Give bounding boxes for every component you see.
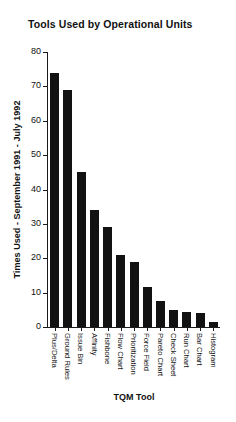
bar: [90, 210, 99, 327]
x-tick-mark: [147, 327, 148, 331]
x-axis-tick-label: Force Field: [142, 333, 150, 371]
chart-title: Tools Used by Operational Units: [28, 17, 193, 31]
bar: [63, 90, 72, 327]
x-tick-mark: [160, 327, 161, 331]
bar: [196, 313, 205, 327]
plot-area: 01020304050607080: [48, 52, 220, 327]
x-axis-tick-label: Issue Bin: [76, 333, 84, 364]
y-axis-title: Times Used - September 1991 - July 1992: [10, 52, 24, 327]
bar: [77, 172, 86, 327]
bar-chart: Tools Used by Operational Units Times Us…: [0, 0, 236, 422]
bar: [116, 255, 125, 327]
x-tick-mark: [187, 327, 188, 331]
x-tick-mark: [55, 327, 56, 331]
x-tick-mark: [81, 327, 82, 331]
y-tick-label: 0: [36, 321, 41, 332]
x-axis-title: TQM Tool: [48, 392, 220, 402]
x-axis-tick-label: Histogram: [209, 333, 217, 368]
x-tick-mark: [108, 327, 109, 331]
x-axis-tick-label: Flow Chart: [116, 333, 124, 370]
x-axis-tick-label: Run Chart: [182, 333, 190, 368]
bar: [169, 310, 178, 327]
x-axis-tick-label: Plus/Delta: [50, 333, 58, 368]
x-axis-tick-label: Fishbone: [103, 333, 111, 364]
bar: [50, 73, 59, 327]
x-axis-labels: Plus/DeltaGround RulesIssue BinAffinityF…: [48, 333, 220, 385]
y-tick-label: 70: [31, 80, 41, 91]
y-tick-label: 30: [31, 218, 41, 229]
x-tick-mark: [68, 327, 69, 331]
x-tick-mark: [121, 327, 122, 331]
x-axis-tick-label: Bar Chart: [195, 333, 203, 366]
bars-series: [48, 52, 220, 327]
x-tick-mark: [174, 327, 175, 331]
bar: [156, 301, 165, 327]
bar: [130, 262, 139, 327]
x-axis-tick-label: Affinity: [90, 333, 98, 356]
x-tick-mark: [94, 327, 95, 331]
y-tick-label: 20: [31, 252, 41, 263]
y-tick-label: 40: [31, 184, 41, 195]
y-tick-label: 10: [31, 287, 41, 298]
bar: [103, 227, 112, 327]
x-axis-tick-label: Pareto Chart: [156, 333, 164, 376]
y-tick-label: 50: [31, 149, 41, 160]
x-axis-tick-label: Prioritization: [129, 333, 137, 375]
y-tick-label: 80: [31, 46, 41, 57]
x-axis-tick-label: Check Sheet: [169, 333, 177, 376]
bar: [143, 287, 152, 327]
x-tick-mark: [134, 327, 135, 331]
x-tick-mark: [213, 327, 214, 331]
x-tick-mark: [200, 327, 201, 331]
x-axis-tick-label: Ground Rules: [63, 333, 71, 380]
bar: [182, 312, 191, 327]
y-tick-label: 60: [31, 115, 41, 126]
